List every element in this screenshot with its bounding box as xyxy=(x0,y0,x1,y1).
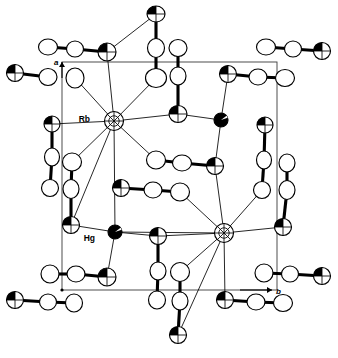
atom-ellipse xyxy=(249,69,267,85)
atom-D01 xyxy=(44,116,60,132)
atom-F02 xyxy=(257,151,272,169)
atom-ellipse xyxy=(39,39,58,55)
atom-shading-wedge xyxy=(44,116,52,124)
atom-F03 xyxy=(254,182,271,199)
coordination-bond xyxy=(115,232,224,233)
atom-ellipse xyxy=(45,148,60,166)
cell-origin-marker xyxy=(60,288,63,291)
axis-label-b: b xyxy=(276,287,281,296)
atom-shading-wedge xyxy=(150,228,159,237)
atom-K02 xyxy=(172,292,188,310)
atom-L06 xyxy=(66,294,83,312)
atom-B03 xyxy=(98,43,116,61)
atom-ellipse xyxy=(257,151,272,169)
atom-D03 xyxy=(42,180,59,197)
atom-label-rb: Rb xyxy=(79,114,90,124)
atom-I01 xyxy=(113,180,130,197)
ortep-diagram-canvas: RbHg ab xyxy=(0,0,338,358)
atom-ellipse xyxy=(171,263,190,282)
atom-A04 xyxy=(169,40,187,57)
atom-ellipse xyxy=(41,265,59,283)
atom-Rb2 xyxy=(215,224,234,243)
atom-J02 xyxy=(150,262,166,280)
atom-A05 xyxy=(170,67,186,85)
atom-ellipse xyxy=(67,266,85,282)
atom-ellipse xyxy=(63,180,79,199)
atom-Hg2 xyxy=(214,113,228,127)
atom-ellipse xyxy=(274,295,293,312)
atom-M03 xyxy=(314,268,331,285)
atom-label-hg: Hg xyxy=(84,233,95,243)
atom-A06 xyxy=(169,106,187,123)
atom-ellipse xyxy=(169,40,187,57)
atom-ellipse xyxy=(279,181,295,200)
coordination-bond xyxy=(215,166,224,233)
atom-ellipse xyxy=(147,151,166,169)
atom-C06 xyxy=(276,70,295,87)
atom-A01 xyxy=(147,6,165,22)
atom-ellipse xyxy=(247,294,265,310)
atom-C05 xyxy=(249,69,267,85)
atom-E01 xyxy=(63,153,82,171)
atom-I02 xyxy=(144,182,162,198)
atom-ellipse xyxy=(42,180,59,197)
atom-shading-wedge xyxy=(314,43,323,52)
atom-ellipse xyxy=(170,67,186,85)
atom-K03 xyxy=(170,327,187,344)
atom-M05 xyxy=(247,294,265,310)
atoms-group xyxy=(7,6,331,344)
atom-J03 xyxy=(149,291,166,309)
atom-B05 xyxy=(39,69,57,86)
atom-L03 xyxy=(98,268,116,286)
atom-ellipse xyxy=(148,39,165,58)
crystal-axes-group: ab xyxy=(54,58,281,296)
atom-ellipse xyxy=(63,153,82,171)
atom-B06 xyxy=(66,68,84,88)
atom-labels-group: RbHg xyxy=(79,114,95,243)
unit-cell-box xyxy=(60,62,277,292)
atom-ellipse xyxy=(150,262,166,280)
atom-shading-wedge xyxy=(98,43,107,52)
atom-ellipse xyxy=(276,70,295,87)
atom-M04 xyxy=(217,292,234,309)
axis-arrowhead-a xyxy=(59,62,65,67)
atom-D02 xyxy=(45,148,60,166)
atom-shading-wedge xyxy=(7,292,16,301)
atom-ellipse xyxy=(40,294,57,310)
atom-shading-wedge xyxy=(7,65,16,74)
atom-ellipse xyxy=(255,264,273,282)
atom-shading-wedge xyxy=(207,158,216,167)
atom-H02 xyxy=(173,155,192,171)
coordination-bond xyxy=(71,121,114,225)
atom-L02 xyxy=(67,266,85,282)
atom-shading-wedge xyxy=(275,219,284,228)
atom-shading-wedge xyxy=(220,66,229,75)
atom-G01 xyxy=(279,154,295,172)
atom-B02 xyxy=(67,41,84,57)
coordination-bond xyxy=(114,121,115,232)
atom-B04 xyxy=(7,65,24,82)
atom-ellipse xyxy=(146,69,167,88)
atom-shading-wedge xyxy=(113,180,122,189)
axis-arrowhead-b xyxy=(267,287,272,293)
atom-B01 xyxy=(39,39,58,55)
atom-shading-wedge xyxy=(257,117,265,125)
atom-ellipse xyxy=(279,154,295,172)
atom-G02 xyxy=(279,181,295,200)
atom-ellipse xyxy=(66,68,84,88)
atom-ellipse xyxy=(66,294,83,312)
atom-Hg1 xyxy=(108,225,122,239)
atom-C03 xyxy=(314,43,331,60)
atom-A03 xyxy=(146,69,167,88)
atom-shading-wedge xyxy=(217,292,226,301)
atom-H03 xyxy=(207,158,224,175)
atom-ellipse xyxy=(144,182,162,198)
atom-ellipse xyxy=(171,183,190,201)
atom-shading-wedge xyxy=(314,268,323,277)
atom-H01 xyxy=(147,151,166,169)
atom-shading-wedge xyxy=(147,6,156,14)
atom-C01 xyxy=(257,39,276,55)
atom-F01 xyxy=(257,117,273,133)
atom-ellipse xyxy=(39,69,57,86)
atom-E03 xyxy=(63,217,80,234)
